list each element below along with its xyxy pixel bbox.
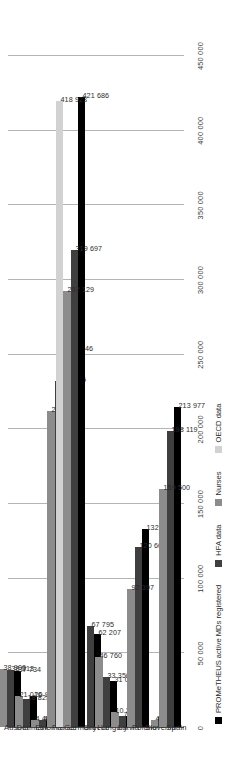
bar-hungary-1 xyxy=(103,677,110,727)
axis-tick-label: 300 000 xyxy=(196,266,205,294)
bar-france-2 xyxy=(47,411,54,727)
bar-group: 62 20767 795Greece xyxy=(88,56,104,727)
bar-spain-2 xyxy=(159,489,166,727)
legend-item[interactable]: OECD data xyxy=(214,404,223,454)
bar-austria-2 xyxy=(0,669,7,727)
bar-group: 20 97218 82521 016Denmark xyxy=(24,56,40,727)
legend-label: PROMeTHEUS active MDs registered xyxy=(214,585,223,713)
axis-tick-label: 400 000 xyxy=(196,117,205,145)
bar-group: 132 638120 66392 397Poland xyxy=(136,56,152,727)
bar-group: 421 686319 697292 129418 923Germany xyxy=(72,56,88,727)
axis-tick-label: 450 000 xyxy=(196,42,205,70)
legend-label: OECD data xyxy=(214,404,223,443)
legend-item[interactable]: HFA data xyxy=(214,524,223,566)
bar-value-label: 213 977 xyxy=(178,401,205,410)
legend-label: Nurses xyxy=(214,471,223,495)
axis-tick-label: 350 000 xyxy=(196,191,205,219)
legend-swatch-icon xyxy=(215,499,222,506)
bar-group: 213 977198 119159 500Spain xyxy=(168,56,184,727)
bar-germany-3 xyxy=(56,101,63,727)
plot-area: 050 000100 000150 000200 000250 000300 0… xyxy=(8,56,184,728)
chart-rotation-wrapper: 050 000100 000150 000200 000250 000300 0… xyxy=(0,0,248,784)
legend-item[interactable]: Nurses xyxy=(214,471,223,506)
bar-poland-2 xyxy=(127,589,134,727)
bar-group: 31 02433 35046 760Hungary xyxy=(104,56,120,727)
axis-tick-label: 100 000 xyxy=(196,565,205,593)
bar-hungary-2 xyxy=(95,657,102,727)
bar-austria-1 xyxy=(7,670,14,727)
category-label-spain: Spain xyxy=(147,723,207,732)
bar-value-label: 198 119 xyxy=(171,425,197,434)
legend-label: HFA data xyxy=(214,524,223,555)
bar-group: 37 73438 31338 900Austria xyxy=(8,56,24,727)
legend-swatch-icon xyxy=(215,717,222,724)
legend-swatch-icon xyxy=(215,560,222,567)
axis-tick-label: 250 000 xyxy=(196,341,205,369)
bar-spain-1 xyxy=(167,431,174,727)
bar-chart-figure: 050 000100 000150 000200 000250 000300 0… xyxy=(0,0,248,784)
bar-poland-0 xyxy=(142,529,149,727)
bar-greece-1 xyxy=(87,626,94,727)
chart-legend: PROMeTHEUS active MDs registeredHFA data… xyxy=(214,404,223,724)
legend-swatch-icon xyxy=(215,446,222,453)
axis-tick-label: 50 000 xyxy=(196,641,205,665)
bar-germany-2 xyxy=(63,291,70,727)
axis-tick-label: 150 000 xyxy=(196,490,205,518)
bar-germany-1 xyxy=(71,250,78,727)
bar-spain-0 xyxy=(174,407,181,727)
bar-poland-1 xyxy=(135,547,142,727)
bar-value-label: 418 923 xyxy=(61,95,88,104)
bar-germany-0 xyxy=(78,97,85,727)
bar-value-label: 159 500 xyxy=(164,482,191,491)
legend-item[interactable]: PROMeTHEUS active MDs registered xyxy=(214,585,223,724)
